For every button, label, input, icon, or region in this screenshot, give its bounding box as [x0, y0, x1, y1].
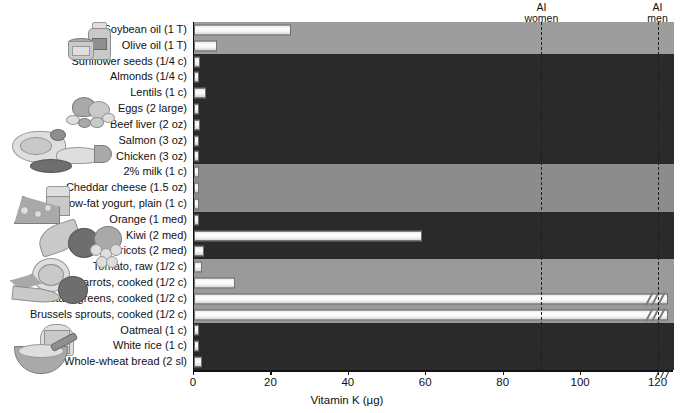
x-tick-label: 100: [571, 376, 590, 388]
ai-men-label-bottom: men: [647, 13, 667, 24]
bar: [194, 325, 199, 336]
bar-row: [194, 243, 674, 259]
bar-row: [194, 323, 674, 339]
bar-row: [194, 164, 674, 180]
bar-row: [194, 291, 674, 307]
x-tick: [580, 370, 581, 375]
ai-women-label: AI women: [524, 2, 558, 24]
bar: [194, 72, 199, 83]
category-label: Chicken (3 oz): [116, 149, 187, 165]
category-label: Tomato, raw (1/2 c): [93, 259, 187, 275]
x-tick: [425, 370, 426, 375]
bar: [194, 309, 668, 320]
ai-men-line: [658, 22, 659, 370]
vitamin-k-chart: AI women AI men Soybean oil (1 T)Olive o…: [0, 0, 694, 413]
bar: [194, 167, 199, 178]
bar: [194, 135, 199, 146]
bar-row: [194, 307, 674, 323]
category-label: White rice (1 c): [113, 338, 187, 354]
bar: [194, 262, 202, 273]
bar-row: [194, 354, 674, 370]
x-tick-label: 60: [419, 376, 432, 388]
category-label: 2% milk (1 c): [123, 164, 187, 180]
bar-break-icon: [644, 308, 666, 321]
category-label: Orange (1 med): [109, 212, 187, 228]
x-tick: [503, 370, 504, 375]
bar-row: [194, 117, 674, 133]
category-label: Sunflower seeds (1/4 c): [71, 54, 187, 70]
category-label: Kiwi (2 med): [126, 228, 187, 244]
bar: [194, 151, 199, 162]
bar-row: [194, 212, 674, 228]
bar-row: [194, 38, 674, 54]
category-label: Carrots, cooked (1/2 c): [75, 275, 187, 291]
bar: [194, 183, 199, 194]
x-tick-label: 0: [190, 376, 196, 388]
bar-row: [194, 259, 674, 275]
bar: [194, 103, 199, 114]
category-label: Whole-wheat bread (2 sl): [64, 354, 187, 370]
bar-row: [194, 180, 674, 196]
bar: [194, 293, 668, 304]
bar-row: [194, 228, 674, 244]
x-tick-label: 40: [341, 376, 354, 388]
category-label: Beef liver (2 oz): [110, 117, 187, 133]
x-tick-label: 20: [264, 376, 277, 388]
category-label: Salmon (3 oz): [119, 133, 187, 149]
bar-row: [194, 85, 674, 101]
bar-row: [194, 149, 674, 165]
bar-row: [194, 22, 674, 38]
bar: [194, 56, 200, 67]
bar-rows: [194, 22, 674, 370]
ai-women-line: [541, 22, 542, 370]
bar: [194, 357, 202, 368]
bar-row: [194, 275, 674, 291]
category-label: Oatmeal (1 c): [120, 323, 187, 339]
category-label: Lentils (1 c): [130, 85, 187, 101]
x-axis-break-icon: [655, 362, 679, 378]
category-label: Low-fat yogurt, plain (1 c): [63, 196, 187, 212]
bar: [194, 277, 235, 288]
x-tick: [193, 370, 194, 375]
bar-row: [194, 196, 674, 212]
bar: [194, 119, 200, 130]
category-label: Eggs (2 large): [118, 101, 187, 117]
ai-women-label-bottom: women: [524, 13, 558, 24]
category-label: Apricots (2 med): [106, 243, 187, 259]
x-axis-title-text: Vitamin K (µg): [311, 394, 384, 406]
category-label: Brussels sprouts, cooked (1/2 c): [30, 307, 187, 323]
bar: [194, 246, 204, 257]
bar-row: [194, 69, 674, 85]
category-label: Soybean oil (1 T): [103, 22, 187, 38]
bar: [194, 198, 199, 209]
x-axis-title: Vitamin K (µg): [0, 394, 694, 406]
category-labels: Soybean oil (1 T)Olive oil (1 T)Sunflowe…: [0, 22, 190, 370]
bar-break-icon: [644, 292, 666, 305]
x-tick: [348, 370, 349, 375]
ai-men-label: AI men: [647, 2, 667, 24]
category-label: Olive oil (1 T): [122, 38, 187, 54]
bar: [194, 40, 217, 51]
x-tick-label: 80: [496, 376, 509, 388]
bar-row: [194, 101, 674, 117]
bar-row: [194, 54, 674, 70]
category-label: Mustard greens, cooked (1/2 c): [35, 291, 187, 307]
category-label: Almonds (1/4 c): [110, 69, 187, 85]
bar-row: [194, 133, 674, 149]
bar-row: [194, 338, 674, 354]
bar: [194, 230, 422, 241]
x-axis: [193, 370, 673, 372]
category-label: Cheddar cheese (1.5 oz): [66, 180, 187, 196]
bar: [194, 341, 199, 352]
bar: [194, 88, 206, 99]
x-tick: [270, 370, 271, 375]
bar: [194, 214, 199, 225]
plot-area: [193, 22, 674, 370]
bar: [194, 24, 291, 35]
